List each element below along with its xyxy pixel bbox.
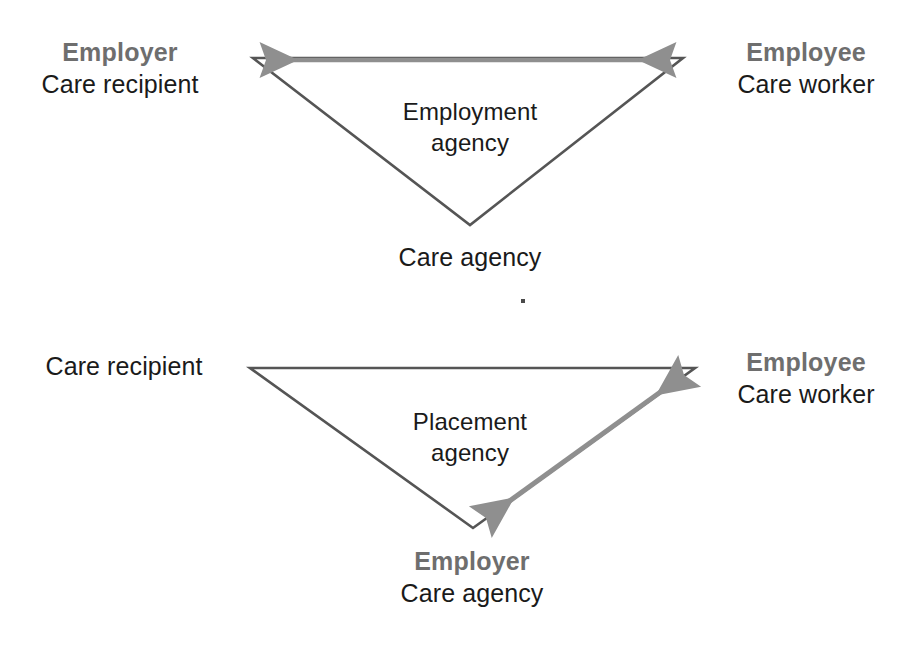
employment-employer-person: Care recipient xyxy=(10,68,230,100)
employment-employee-role: Employee xyxy=(706,36,906,68)
employment-agency-line2: agency xyxy=(370,127,570,158)
placement-agency-line2: agency xyxy=(370,437,570,468)
placement-agency-center-label: Placement agency xyxy=(370,406,570,468)
placement-employee-role: Employee xyxy=(706,346,906,378)
placement-apex-node-label: Employer Care agency xyxy=(356,545,588,609)
placement-apex-role: Employer xyxy=(356,545,588,577)
scan-artifact-dot xyxy=(521,299,525,303)
placement-agency-line1: Placement xyxy=(370,406,570,437)
placement-apex-person: Care agency xyxy=(356,577,588,609)
diagram-page: Employer Care recipient Employee Care wo… xyxy=(0,0,912,651)
placement-care-recipient-person: Care recipient xyxy=(10,350,238,382)
employment-apex-person: Care agency xyxy=(360,241,580,273)
employment-agency-line1: Employment xyxy=(370,96,570,127)
placement-employee-node-label: Employee Care worker xyxy=(706,346,906,410)
employment-employer-node-label: Employer Care recipient xyxy=(10,36,230,100)
employment-employee-person: Care worker xyxy=(706,68,906,100)
employment-employer-role: Employer xyxy=(10,36,230,68)
employment-employee-node-label: Employee Care worker xyxy=(706,36,906,100)
placement-employee-person: Care worker xyxy=(706,378,906,410)
placement-care-recipient-node-label: Care recipient xyxy=(10,350,238,382)
employment-agency-center-label: Employment agency xyxy=(370,96,570,158)
employment-apex-node-label: Care agency xyxy=(360,241,580,273)
